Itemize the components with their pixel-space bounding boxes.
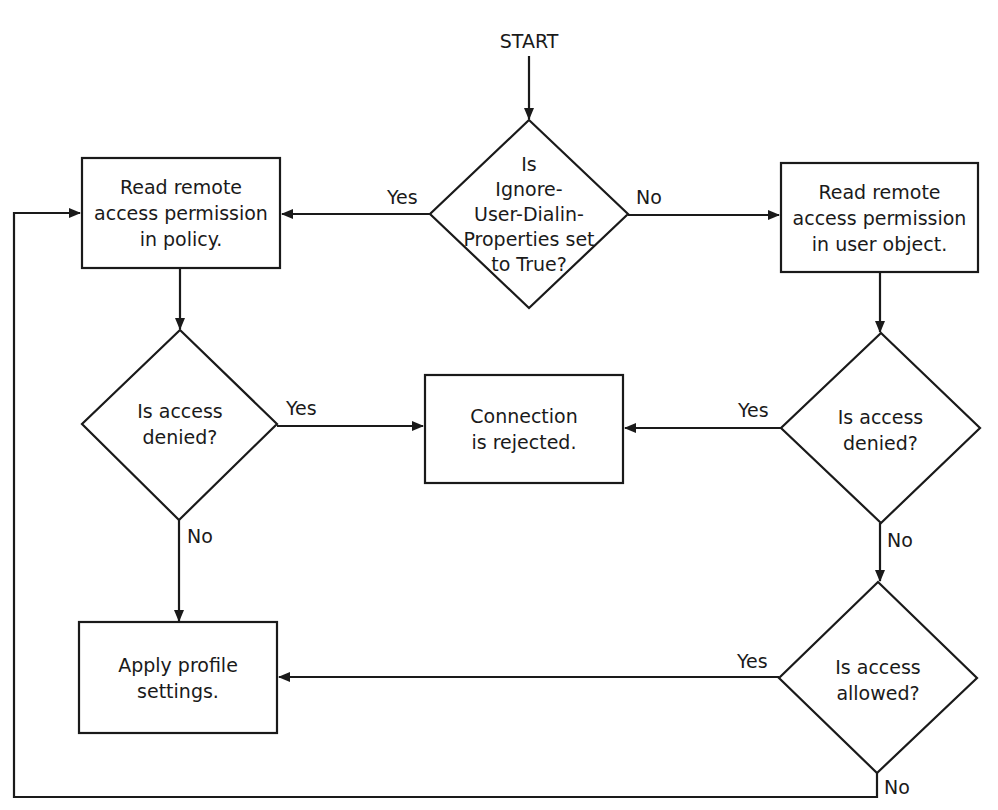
denied-left-text: Is access denied?	[82, 376, 278, 472]
start-label: START	[479, 28, 579, 54]
allowed-no-label: No	[884, 776, 910, 798]
denied-left-yes-label: Yes	[286, 397, 317, 419]
allowed-yes-label: Yes	[737, 650, 768, 672]
apply-profile-text: Apply profile settings.	[79, 622, 277, 733]
ignore-check-text: Is Ignore- User-Dialin- Properties set t…	[430, 130, 628, 298]
read-policy-text: Read remote access permission in policy.	[82, 158, 280, 268]
ignore-yes-label: Yes	[387, 186, 418, 208]
denied-right-text: Is access denied?	[781, 382, 980, 478]
allowed-text: Is access allowed?	[779, 632, 977, 728]
denied-right-no-label: No	[887, 529, 913, 551]
ignore-no-label: No	[636, 186, 662, 208]
read-user-text: Read remote access permission in user ob…	[781, 163, 978, 272]
denied-right-yes-label: Yes	[738, 399, 769, 421]
denied-left-no-label: No	[187, 525, 213, 547]
rejected-text: Connection is rejected.	[425, 375, 623, 483]
